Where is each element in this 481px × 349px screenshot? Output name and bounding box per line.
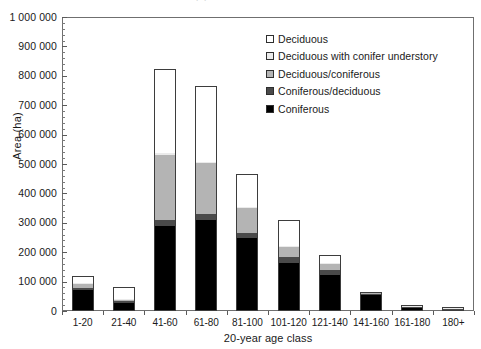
bar-segment-coniferous (360, 295, 382, 311)
y-minor-tick-mark (62, 229, 65, 230)
bar-segment-coniferous (401, 308, 423, 311)
y-minor-tick-mark (62, 276, 65, 277)
y-minor-tick-mark (62, 123, 65, 124)
x-tick-label: 141-160 (350, 317, 391, 328)
x-tick-label: 161-180 (392, 317, 433, 328)
x-tick-label: 81-100 (227, 317, 268, 328)
bar-101-120 (278, 220, 300, 311)
y-minor-tick-mark (62, 29, 65, 30)
x-tick-mark (62, 311, 63, 315)
x-tick-label: 121-140 (309, 317, 350, 328)
x-tick-mark (227, 311, 228, 315)
x-tick-label: 41-60 (144, 317, 185, 328)
legend-item: Deciduous with conifer understory (266, 48, 472, 66)
bar-segment-coniferous (195, 220, 217, 311)
bar-1-20 (72, 276, 94, 311)
y-minor-tick-mark (62, 176, 65, 177)
legend-label: Deciduous (278, 33, 328, 45)
y-minor-tick-mark (62, 182, 65, 183)
bar-segment-deciduous (113, 287, 135, 299)
bar-segment-deciduous (154, 69, 176, 154)
y-minor-tick-mark (62, 287, 65, 288)
legend-item: Deciduous/coniferous (266, 65, 472, 83)
bar-segment-deciduous (319, 255, 341, 263)
x-tick-mark (474, 311, 475, 315)
bar-81-100 (236, 174, 258, 311)
stacked-bar-chart: Area (ha) 0100 000200 000300 000400 0005… (0, 0, 481, 349)
y-minor-tick-mark (62, 246, 65, 247)
y-tick-mark (62, 135, 67, 136)
y-minor-tick-mark (62, 205, 65, 206)
y-minor-tick-mark (62, 146, 65, 147)
y-tick-mark (62, 76, 67, 77)
y-minor-tick-mark (62, 64, 65, 65)
y-minor-tick-mark (62, 99, 65, 100)
bar-segment-coniferous (113, 303, 135, 311)
x-tick-label: 101-120 (268, 317, 309, 328)
legend-item: Coniferous/deciduous (266, 83, 472, 101)
y-minor-tick-mark (62, 199, 65, 200)
y-tick-label: 300 000 (0, 217, 57, 228)
y-minor-tick-mark (62, 152, 65, 153)
y-minor-tick-mark (62, 217, 65, 218)
bar-segment-coniferous (319, 275, 341, 311)
y-minor-tick-mark (62, 117, 65, 118)
x-tick-mark (268, 311, 269, 315)
y-tick-label: 900 000 (0, 41, 57, 52)
y-tick-label: 400 000 (0, 188, 57, 199)
x-tick-label: 1-20 (62, 317, 103, 328)
legend-label: Deciduous/coniferous (278, 68, 380, 80)
y-minor-tick-mark (62, 111, 65, 112)
y-minor-tick-mark (62, 82, 65, 83)
y-minor-tick-mark (62, 129, 65, 130)
y-minor-tick-mark (62, 70, 65, 71)
x-tick-mark (309, 311, 310, 315)
legend-swatch-icon (266, 87, 274, 95)
bar-segment-coniferous (154, 226, 176, 311)
y-tick-mark (62, 193, 67, 194)
y-minor-tick-mark (62, 211, 65, 212)
x-tick-mark (392, 311, 393, 315)
x-tick-label: 180+ (433, 317, 474, 328)
bar-segment-coniferous (278, 263, 300, 311)
bar-41-60 (154, 69, 176, 312)
y-minor-tick-mark (62, 88, 65, 89)
legend-label: Coniferous/deciduous (278, 85, 381, 97)
y-minor-tick-mark (62, 35, 65, 36)
x-tick-mark (103, 311, 104, 315)
y-minor-tick-mark (62, 293, 65, 294)
y-minor-tick-mark (62, 93, 65, 94)
x-axis-title: 20-year age class (62, 332, 474, 344)
bar-segment-deciduous-coniferous (236, 208, 258, 233)
x-tick-label: 21-40 (103, 317, 144, 328)
legend-swatch-icon (266, 70, 274, 78)
x-tick-label: 61-80 (186, 317, 227, 328)
y-tick-mark (62, 252, 67, 253)
y-minor-tick-mark (62, 52, 65, 53)
bar-segment-deciduous (278, 220, 300, 246)
bar-121-140 (319, 255, 341, 311)
legend-label: Coniferous (278, 103, 329, 115)
bar-segment-coniferous (236, 238, 258, 311)
legend-item: Coniferous (266, 100, 472, 118)
bar-segment-deciduous (195, 86, 217, 162)
y-tick-label: 200 000 (0, 247, 57, 258)
y-tick-mark (62, 17, 67, 18)
y-tick-label: 700 000 (0, 100, 57, 111)
legend-swatch-icon (266, 52, 274, 60)
bar-141-160 (360, 292, 382, 311)
y-tick-mark (62, 223, 67, 224)
bar-segment-deciduous-coniferous (278, 247, 300, 257)
legend-swatch-icon (266, 105, 274, 113)
x-tick-mark (144, 311, 145, 315)
y-minor-tick-mark (62, 23, 65, 24)
bar-segment-coniferous (442, 310, 464, 311)
y-minor-tick-mark (62, 158, 65, 159)
y-minor-tick-mark (62, 240, 65, 241)
y-minor-tick-mark (62, 170, 65, 171)
bar-161-180 (401, 305, 423, 311)
y-tick-label: 0 (0, 306, 57, 317)
bar-segment-coniferous (72, 290, 94, 311)
chart-legend: DeciduousDeciduous with conifer understo… (266, 30, 472, 118)
y-minor-tick-mark (62, 140, 65, 141)
